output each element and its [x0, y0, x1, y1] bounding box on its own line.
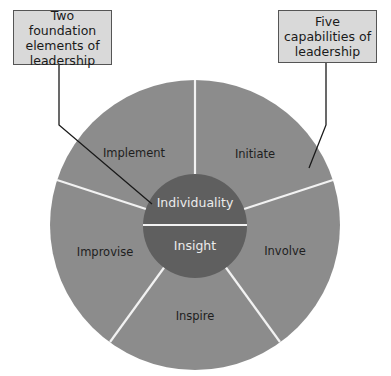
callout-capabilities-text: Five capabilities of leadership [283, 14, 372, 59]
core-label-insight: Insight [174, 238, 216, 253]
segment-label-initiate: Initiate [235, 147, 275, 161]
callout-foundation-elements: Two foundation elements of leadership [13, 10, 112, 65]
segment-label-involve: Involve [264, 244, 306, 258]
callout-foundation-text: Two foundation elements of leadership [18, 8, 107, 68]
callout-capabilities: Five capabilities of leadership [278, 10, 377, 63]
segment-label-implement: Implement [103, 146, 166, 160]
segment-label-improvise: Improvise [77, 245, 133, 259]
core-label-individuality: Individuality [157, 195, 234, 210]
segment-label-inspire: Inspire [176, 309, 215, 323]
